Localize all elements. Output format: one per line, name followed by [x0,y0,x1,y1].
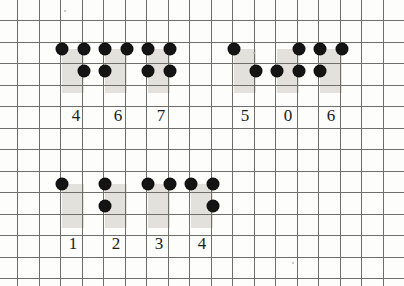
scan-speck [292,262,294,264]
digit-label: 2 [105,234,127,254]
digit-label: 5 [234,106,256,126]
digit-label: 6 [107,106,129,126]
digit-label: 3 [148,234,170,254]
digit-label: 7 [150,106,172,126]
digit-label: 6 [320,106,342,126]
digit-label: 4 [65,106,87,126]
dot-notation-chart: 4675061234 [0,0,404,286]
digit-labels-layer: 4675061234 [0,0,404,286]
scan-speck [253,52,255,54]
digit-label: 1 [62,234,84,254]
digit-label: 0 [277,106,299,126]
digit-label: 4 [191,234,213,254]
scan-speck [64,10,66,12]
